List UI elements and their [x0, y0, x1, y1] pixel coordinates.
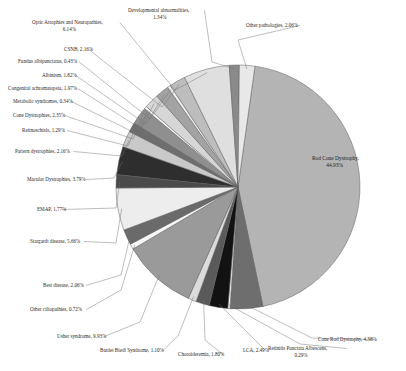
leader-line-best-disease	[121, 236, 130, 275]
leader-stub-bardet-biedl-syndrome	[163, 336, 178, 351]
pie-label-choroideremia: Choroideremia, 1.80%	[178, 351, 225, 357]
leader-stub-other-ciliopathies	[86, 290, 121, 310]
pie-label-macular-dystrophies: Macular Dystrophies, 3.79%	[27, 176, 86, 182]
pie-label-line2-retinitis-punctata-albescens: 0.29%	[294, 352, 308, 358]
pie-label-line2-developmental-abnormalities: 1.34%	[153, 14, 167, 20]
pie-label-optic-atrophies-and-neuropathies: Optic Atrophies and Neuropathies,6.14%	[32, 19, 103, 32]
pie-label-fundus-albipunctatus: Fundus albipunctatus, 0.43%	[18, 58, 78, 64]
leader-stub-best-disease	[86, 275, 121, 286]
pie-label-line2-rod-cone-dystrophy: 44.93%	[326, 162, 343, 168]
pie-label-usher-syndrome: Usher syndrome, 9.93%	[57, 333, 107, 339]
leader-line-other-pathologies	[238, 40, 247, 69]
pie-label-line1-retinitis-punctata-albescens: Retinitis Punctata Albescens,	[268, 345, 327, 351]
leader-line-bardet-biedl-syndrome	[178, 297, 194, 336]
pie-label-other-ciliopathies: Other ciliopathies, 0.72%	[30, 306, 83, 312]
pie-label-bardet-biedl-syndrome: Bardet Biedl Syndrome, 1.10%	[100, 347, 165, 353]
pie-label-stargardt-disease: Stargardt disease, 5.66%	[30, 238, 81, 244]
pie-label-cone-rod-dystrophy: Cone Rod Dystrophy, 4.38%	[318, 336, 377, 342]
leader-line-other-ciliopathies	[121, 245, 135, 290]
pie-label-congenital-achromatopsia: Congenital achromatopsia, 1.97%	[8, 85, 78, 91]
pie-label-csnb: CSNB, 2.16%	[64, 46, 94, 52]
leader-line-usher-syndrome	[140, 275, 159, 322]
leader-stub-congenital-achromatopsia	[78, 89, 141, 130]
pie-label-albinism: Albinism, 1.82%	[42, 72, 77, 78]
pie-label-best-disease: Best disease, 2.06%	[43, 282, 84, 288]
leader-stub-emap	[62, 208, 116, 210]
pie-slices	[116, 65, 360, 309]
leader-stub-optic-atrophies-and-neuropathies	[120, 23, 175, 91]
pie-label-retinoschisis: Retinoschisis, 1.29%	[22, 127, 66, 133]
pie-label-line1-rod-cone-dystrophy: Rod Cone Dystrophy,	[312, 155, 359, 161]
leader-stub-stargardt-disease	[84, 242, 116, 244]
leader-stub-retinoschisis	[67, 131, 128, 147]
leader-stub-developmental-abnormalities	[205, 11, 213, 63]
pie-label-line1-developmental-abnormalities: Developmental abnormalities,	[128, 7, 189, 13]
pie-label-developmental-abnormalities: Developmental abnormalities,1.34%	[128, 7, 189, 20]
pie-label-retinitis-punctata-albescens: Retinitis Punctata Albescens,0.29%	[268, 345, 327, 358]
pie-chart-canvas: Rod Cone Dystrophy,44.93%Cone Rod Dystro…	[0, 0, 406, 371]
leader-line-cone-rod-dystrophy	[246, 305, 312, 338]
leader-stub-albinism	[76, 76, 146, 125]
pie-label-other-pathologies: Other pathologies, 2.06%	[246, 22, 299, 28]
pie-label-metabolic-syndromes: Metabolic syndromes, 0.34%	[13, 98, 73, 104]
leader-stub-usher-syndrome	[104, 322, 140, 337]
leader-stub-pattern-dystrophies	[74, 152, 123, 157]
leader-line-choroideremia	[204, 300, 205, 340]
pie-label-line2-optic-atrophies-and-neuropathies: 6.14%	[63, 26, 77, 32]
pie-chart: Rod Cone Dystrophy,44.93%Cone Rod Dystro…	[0, 0, 406, 371]
leader-stub-cone-dystrophies	[65, 116, 133, 140]
pie-label-line1-optic-atrophies-and-neuropathies: Optic Atrophies and Neuropathies,	[32, 19, 103, 25]
pie-label-lca: LCA, 2.49%	[243, 347, 270, 353]
leader-stub-macular-dystrophies	[86, 178, 115, 180]
pie-slice-rod-cone-dystrophy[interactable]	[238, 66, 360, 306]
pie-label-pattern-dystrophies: Pattern dystrophies, 2.16%	[15, 148, 71, 154]
pie-label-cone-dystrophies: Cone Dystrophies, 2.35%	[13, 112, 66, 118]
pie-label-emap: EMAP, 1.77%	[37, 206, 67, 212]
